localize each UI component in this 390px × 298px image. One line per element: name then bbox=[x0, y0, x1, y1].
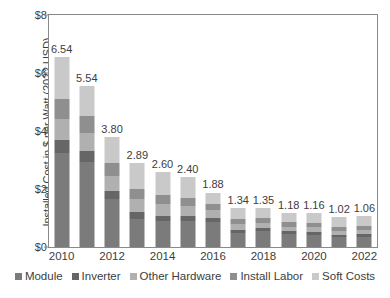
x-axis-tick-label: 2018 bbox=[251, 250, 277, 262]
bar-group[interactable]: 2.40 bbox=[175, 15, 200, 247]
bar-group[interactable]: 2.89 bbox=[125, 15, 150, 247]
y-axis-tick-mark bbox=[44, 189, 48, 190]
legend-swatch-icon bbox=[130, 273, 137, 280]
y-axis-tick-label: $8 bbox=[7, 9, 47, 21]
bar-segment-install-labor[interactable] bbox=[105, 163, 120, 176]
x-axis-tick-label: 2012 bbox=[99, 250, 125, 262]
bar-group[interactable]: 1.35 bbox=[251, 15, 276, 247]
legend-item-inverter[interactable]: Inverter bbox=[72, 270, 121, 282]
bar-value-label: 1.18 bbox=[278, 199, 299, 211]
bar-segment-soft-costs[interactable] bbox=[205, 193, 220, 204]
bar-stack[interactable] bbox=[231, 208, 246, 247]
stacked-bar-chart: Installed Cost in $ per Watt (2022 USD) … bbox=[0, 0, 390, 298]
bar-segment-module[interactable] bbox=[54, 153, 69, 247]
bar-segment-install-labor[interactable] bbox=[79, 116, 94, 133]
legend-swatch-icon bbox=[15, 273, 22, 280]
bar-segment-other-hardware[interactable] bbox=[79, 133, 94, 151]
bar-segment-other-hardware[interactable] bbox=[130, 199, 145, 212]
bar-stack[interactable] bbox=[105, 137, 120, 247]
bar-value-label: 1.88 bbox=[202, 178, 223, 190]
legend-swatch-icon bbox=[312, 273, 319, 280]
bar-segment-install-labor[interactable] bbox=[180, 198, 195, 206]
y-axis-tick-label: $4 bbox=[7, 125, 47, 137]
bar-group[interactable]: 1.02 bbox=[327, 15, 352, 247]
bar-stack[interactable] bbox=[79, 86, 94, 247]
bar-segment-module[interactable] bbox=[231, 233, 246, 247]
bar-group[interactable]: 1.18 bbox=[276, 15, 301, 247]
bar-segment-other-hardware[interactable] bbox=[54, 119, 69, 140]
bar-segment-other-hardware[interactable] bbox=[155, 204, 170, 216]
bar-segment-inverter[interactable] bbox=[105, 191, 120, 199]
bar-value-label: 1.16 bbox=[303, 199, 324, 211]
bar-segment-soft-costs[interactable] bbox=[357, 216, 372, 226]
bar-value-label: 1.34 bbox=[228, 194, 249, 206]
bar-stack[interactable] bbox=[306, 213, 321, 247]
bar-stack[interactable] bbox=[357, 216, 372, 247]
bar-segment-module[interactable] bbox=[105, 199, 120, 247]
bar-value-label: 5.54 bbox=[76, 72, 97, 84]
bar-stack[interactable] bbox=[155, 172, 170, 247]
legend-item-other-hardware[interactable]: Other Hardware bbox=[130, 270, 222, 282]
bar-segment-install-labor[interactable] bbox=[54, 99, 69, 119]
legend-label: Other Hardware bbox=[140, 270, 222, 282]
legend-label: Module bbox=[25, 270, 63, 282]
bar-segment-soft-costs[interactable] bbox=[332, 217, 347, 226]
chart-legend: ModuleInverterOther HardwareInstall Labo… bbox=[0, 270, 390, 282]
legend-label: Install Labor bbox=[240, 270, 303, 282]
bar-value-label: 3.80 bbox=[101, 123, 122, 135]
bar-segment-soft-costs[interactable] bbox=[105, 137, 120, 163]
bar-segment-soft-costs[interactable] bbox=[231, 208, 246, 219]
bar-segment-soft-costs[interactable] bbox=[155, 172, 170, 196]
legend-item-module[interactable]: Module bbox=[15, 270, 63, 282]
bar-segment-soft-costs[interactable] bbox=[79, 86, 94, 116]
bar-value-label: 2.60 bbox=[152, 158, 173, 170]
bar-stack[interactable] bbox=[256, 208, 271, 247]
bar-segment-install-labor[interactable] bbox=[130, 189, 145, 199]
legend-item-install-labor[interactable]: Install Labor bbox=[230, 270, 303, 282]
bar-segment-other-hardware[interactable] bbox=[205, 210, 220, 218]
bar-group[interactable]: 1.88 bbox=[200, 15, 225, 247]
bar-segment-module[interactable] bbox=[281, 234, 296, 247]
bar-segment-other-hardware[interactable] bbox=[105, 176, 120, 191]
bar-group[interactable]: 1.16 bbox=[301, 15, 326, 247]
bar-group[interactable]: 2.60 bbox=[150, 15, 175, 247]
y-axis-tick-mark bbox=[44, 73, 48, 74]
bar-segment-module[interactable] bbox=[130, 219, 145, 247]
bar-segment-other-hardware[interactable] bbox=[180, 206, 195, 216]
bar-stack[interactable] bbox=[54, 57, 69, 247]
bar-group[interactable]: 3.80 bbox=[99, 15, 124, 247]
bar-segment-module[interactable] bbox=[306, 235, 321, 247]
bar-segment-module[interactable] bbox=[79, 162, 94, 247]
bar-segment-module[interactable] bbox=[357, 237, 372, 247]
bar-segment-inverter[interactable] bbox=[54, 140, 69, 153]
y-axis-tick-label: $0 bbox=[7, 241, 47, 253]
bar-group[interactable]: 6.54 bbox=[49, 15, 74, 247]
bar-value-label: 1.02 bbox=[328, 203, 349, 215]
bar-stack[interactable] bbox=[332, 217, 347, 247]
bar-segment-soft-costs[interactable] bbox=[130, 163, 145, 189]
legend-swatch-icon bbox=[72, 273, 79, 280]
y-axis-tick-label: $6 bbox=[7, 67, 47, 79]
legend-swatch-icon bbox=[230, 273, 237, 280]
bar-segment-module[interactable] bbox=[180, 221, 195, 247]
bar-group[interactable]: 1.06 bbox=[352, 15, 377, 247]
bar-stack[interactable] bbox=[130, 163, 145, 247]
bar-segment-soft-costs[interactable] bbox=[180, 177, 195, 198]
bar-segment-module[interactable] bbox=[155, 221, 170, 247]
legend-item-soft-costs[interactable]: Soft Costs bbox=[312, 270, 375, 282]
bar-group[interactable]: 1.34 bbox=[226, 15, 251, 247]
bar-segment-soft-costs[interactable] bbox=[306, 213, 321, 223]
x-axis-tick-label: 2016 bbox=[200, 250, 226, 262]
bar-segment-soft-costs[interactable] bbox=[281, 213, 296, 223]
bar-segment-module[interactable] bbox=[205, 222, 220, 247]
bar-group[interactable]: 5.54 bbox=[74, 15, 99, 247]
bar-segment-soft-costs[interactable] bbox=[256, 208, 271, 218]
bar-segment-inverter[interactable] bbox=[79, 151, 94, 162]
bar-segment-module[interactable] bbox=[256, 231, 271, 247]
bar-segment-module[interactable] bbox=[332, 237, 347, 247]
bar-stack[interactable] bbox=[281, 213, 296, 247]
bar-stack[interactable] bbox=[205, 192, 220, 247]
bar-segment-soft-costs[interactable] bbox=[54, 57, 69, 99]
bar-segment-install-labor[interactable] bbox=[155, 195, 170, 204]
bar-stack[interactable] bbox=[180, 177, 195, 247]
